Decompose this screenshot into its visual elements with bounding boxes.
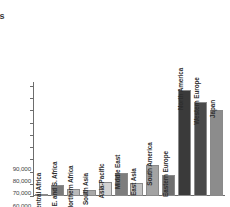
bar-category-label: South Asia bbox=[82, 173, 89, 205]
bar: Middle East bbox=[115, 173, 128, 196]
cut-off-text-line-2: rts bbox=[0, 11, 60, 22]
bar-slot: Central Africa bbox=[34, 86, 50, 196]
y-axis-tick bbox=[30, 172, 34, 173]
bar-category-label: Western Europe bbox=[193, 77, 200, 125]
bar: Western Europe bbox=[194, 102, 207, 196]
bar: Asia-Pacific bbox=[99, 182, 112, 196]
bar: East Asia bbox=[130, 183, 143, 196]
bar-series: Central AfricaE. and S. AfricaNorthern A… bbox=[34, 86, 224, 196]
bar: Central Africa bbox=[35, 194, 48, 196]
bar-slot: South Asia bbox=[81, 86, 97, 196]
bar-slot: South America bbox=[145, 86, 161, 196]
y-axis-tick bbox=[30, 159, 34, 160]
bar-category-label: East Asia bbox=[130, 168, 137, 196]
y-axis-tick bbox=[30, 86, 34, 87]
y-axis-tick-label: 70,000 bbox=[13, 189, 31, 196]
y-axis-tick-label: 90,000 bbox=[13, 165, 31, 172]
bar-slot: E. and S. Africa bbox=[50, 86, 66, 196]
y-axis-tick bbox=[30, 123, 34, 124]
bar-category-label: Central Africa bbox=[35, 172, 42, 207]
bar-chart: 010,00020,00030,00040,00050,00060,00070,… bbox=[0, 78, 230, 207]
y-axis-tick-label: 60,000 bbox=[13, 201, 31, 207]
plot-area: Central AfricaE. and S. AfricaNorthern A… bbox=[33, 82, 225, 200]
y-axis-labels: 010,00020,00030,00040,00050,00060,00070,… bbox=[0, 160, 31, 207]
bar-category-label: Northern Africa bbox=[67, 166, 74, 207]
bar-slot: Asia-Pacific bbox=[97, 86, 113, 196]
bar-category-label: Japan bbox=[209, 100, 216, 118]
bar: North America bbox=[178, 90, 191, 196]
bar-category-label: E. and S. Africa bbox=[51, 161, 58, 206]
y-axis-tick bbox=[30, 196, 34, 197]
bar-category-label: Asia-Pacific bbox=[98, 163, 105, 198]
bar-slot: North America bbox=[176, 86, 192, 196]
bar-category-label: Middle East bbox=[114, 155, 121, 189]
bar: Eastern Europe bbox=[162, 175, 175, 196]
bar-category-label: South America bbox=[146, 143, 153, 187]
bar: South Asia bbox=[83, 190, 96, 196]
bar-category-label: North America bbox=[177, 67, 184, 110]
bar-slot: Middle East bbox=[113, 86, 129, 196]
bar-category-label: Eastern Europe bbox=[162, 151, 169, 197]
bar: Japan bbox=[210, 110, 223, 196]
bar-slot: Western Europe bbox=[192, 86, 208, 196]
bar-slot: Eastern Europe bbox=[161, 86, 177, 196]
bar: South America bbox=[146, 165, 159, 196]
bar: Northern Africa bbox=[67, 189, 80, 196]
y-axis-tick bbox=[30, 147, 34, 148]
y-axis-tick bbox=[30, 184, 34, 185]
bar: E. and S. Africa bbox=[51, 185, 64, 196]
y-axis-tick bbox=[30, 110, 34, 111]
bar-slot: East Asia bbox=[129, 86, 145, 196]
bar-slot: Japan bbox=[208, 86, 224, 196]
bar-slot: Northern Africa bbox=[66, 86, 82, 196]
y-axis-tick bbox=[30, 98, 34, 99]
y-axis-tick bbox=[30, 135, 34, 136]
cut-off-text-line-1: d bbox=[0, 0, 60, 11]
cut-off-header-text: d rts bbox=[0, 0, 60, 26]
y-axis-tick-label: 80,000 bbox=[13, 177, 31, 184]
